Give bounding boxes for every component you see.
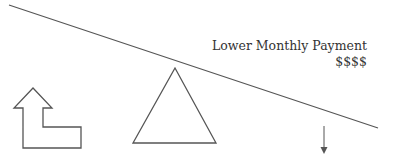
- down-arrow-icon: [321, 126, 328, 154]
- balance-beam: [9, 5, 378, 128]
- amount-text: $$$$: [335, 54, 367, 69]
- up-turn-arrow-icon: [14, 88, 81, 148]
- diagram-canvas: Lower Monthly Payment $$$$: [0, 0, 393, 161]
- diagram-svg: [0, 0, 393, 161]
- fulcrum-triangle: [133, 68, 216, 143]
- caption-text: Lower Monthly Payment: [212, 38, 367, 53]
